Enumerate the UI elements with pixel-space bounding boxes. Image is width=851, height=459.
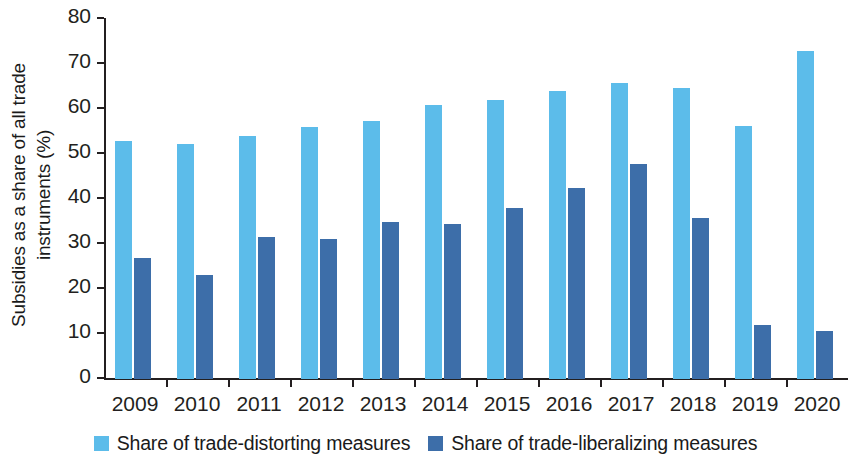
bar-group — [476, 19, 538, 379]
x-tick — [290, 380, 292, 387]
bar-trade-liberalizing — [568, 188, 585, 379]
y-tick: 60 — [97, 107, 104, 109]
bar-trade-liberalizing — [382, 222, 399, 379]
bar-trade-distorting — [487, 100, 504, 379]
x-tick — [538, 380, 540, 387]
x-tick — [724, 380, 726, 387]
bar-trade-distorting — [735, 126, 752, 379]
y-tick: 20 — [97, 287, 104, 289]
bar-trade-distorting — [797, 51, 814, 380]
y-tick: 40 — [97, 197, 104, 199]
bar-trade-liberalizing — [444, 224, 461, 379]
chart-legend: Share of trade-distorting measuresShare … — [0, 428, 851, 459]
legend-swatch-icon — [428, 436, 443, 451]
x-tick-label: 2020 — [786, 392, 848, 416]
y-axis-title: Subsidies as a share of all trade instru… — [0, 0, 62, 390]
y-tick: 0 — [97, 377, 104, 379]
x-tick — [786, 380, 788, 387]
x-tick-label: 2018 — [662, 392, 724, 416]
bar-trade-liberalizing — [754, 325, 771, 379]
x-tick — [662, 380, 664, 387]
y-axis-title-line-1: Subsidies as a share of all trade — [6, 63, 31, 327]
legend-swatch-icon — [94, 436, 109, 451]
bar-group — [290, 19, 352, 379]
y-tick-label: 30 — [68, 230, 91, 252]
bar-trade-liberalizing — [196, 275, 213, 379]
bar-group — [414, 19, 476, 379]
bar-trade-liberalizing — [258, 237, 275, 379]
bar-trade-liberalizing — [816, 331, 833, 379]
bar-group — [166, 19, 228, 379]
bar-trade-distorting — [611, 83, 628, 379]
y-tick-label: 70 — [68, 50, 91, 72]
bar-group — [600, 19, 662, 379]
x-tick-label: 2015 — [476, 392, 538, 416]
plot-area: 01020304050607080 — [104, 19, 848, 379]
y-tick-label: 60 — [68, 95, 91, 117]
y-tick-label: 10 — [68, 320, 91, 342]
bar-trade-distorting — [673, 88, 690, 379]
x-tick — [600, 380, 602, 387]
y-tick-label: 40 — [68, 185, 91, 207]
bar-trade-liberalizing — [630, 164, 647, 379]
y-tick-label: 20 — [68, 275, 91, 297]
bar-trade-distorting — [115, 141, 132, 379]
bar-trade-liberalizing — [320, 239, 337, 379]
x-tick-label: 2010 — [166, 392, 228, 416]
x-tick-label: 2012 — [290, 392, 352, 416]
x-tick — [414, 380, 416, 387]
y-tick: 80 — [97, 17, 104, 19]
y-tick-label: 80 — [68, 5, 91, 27]
y-tick: 30 — [97, 242, 104, 244]
x-tick-label: 2019 — [724, 392, 786, 416]
legend-item[interactable]: Share of trade-distorting measures — [94, 432, 410, 455]
bar-group — [228, 19, 290, 379]
bar-trade-liberalizing — [134, 258, 151, 379]
bar-trade-liberalizing — [692, 218, 709, 379]
bar-trade-distorting — [177, 144, 194, 379]
x-tick — [476, 380, 478, 387]
legend-item[interactable]: Share of trade-liberalizing measures — [428, 432, 757, 455]
y-axis-title-line-2: instruments (%) — [31, 63, 56, 327]
legend-label: Share of trade-liberalizing measures — [451, 432, 757, 455]
x-tick — [228, 380, 230, 387]
bar-trade-distorting — [363, 121, 380, 379]
bar-group — [104, 19, 166, 379]
y-tick-label: 0 — [79, 365, 91, 387]
x-tick-label: 2011 — [228, 392, 290, 416]
bar-trade-distorting — [301, 127, 318, 379]
bar-group — [662, 19, 724, 379]
x-tick-label: 2017 — [600, 392, 662, 416]
y-tick: 50 — [97, 152, 104, 154]
legend-label: Share of trade-distorting measures — [117, 432, 410, 455]
bar-group — [538, 19, 600, 379]
x-tick-label: 2014 — [414, 392, 476, 416]
bar-trade-liberalizing — [506, 208, 523, 379]
y-tick: 70 — [97, 62, 104, 64]
bar-group — [352, 19, 414, 379]
y-tick: 10 — [97, 332, 104, 334]
x-tick-label: 2009 — [104, 392, 166, 416]
bar-group — [786, 19, 848, 379]
bar-group — [724, 19, 786, 379]
x-tick — [352, 380, 354, 387]
x-tick-label: 2013 — [352, 392, 414, 416]
bar-chart-figure: Subsidies as a share of all trade instru… — [0, 0, 851, 459]
bar-trade-distorting — [549, 91, 566, 379]
x-tick-label: 2016 — [538, 392, 600, 416]
y-tick-label: 50 — [68, 140, 91, 162]
bar-trade-distorting — [425, 105, 442, 380]
x-tick — [166, 380, 168, 387]
bar-trade-distorting — [239, 136, 256, 379]
